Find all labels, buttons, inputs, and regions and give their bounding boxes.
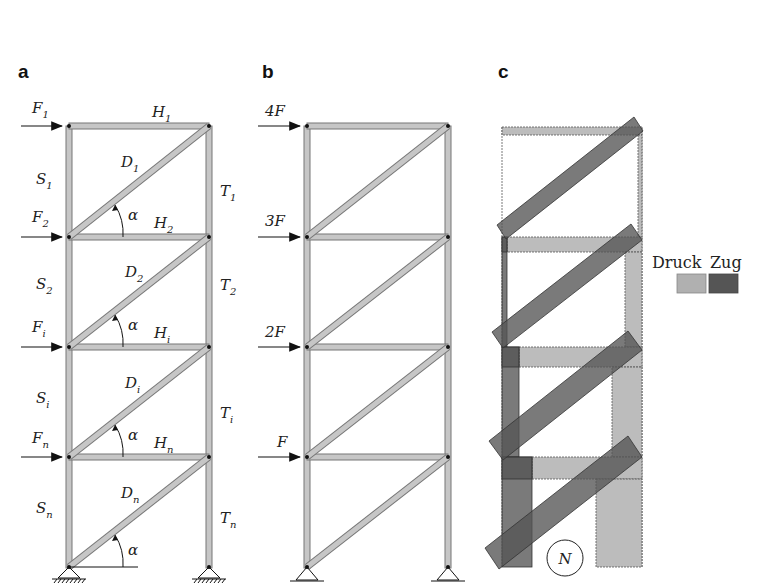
legend-tension-label: Zug	[710, 253, 742, 272]
horizontal-member-i	[69, 344, 209, 350]
legend: Druck Zug	[652, 253, 742, 293]
pin-support-icon	[431, 567, 465, 581]
left-column-label: Si	[36, 389, 49, 410]
right-column-force-band	[596, 479, 642, 567]
diagonal-label: Dn	[120, 484, 139, 505]
force-label: F2	[31, 208, 49, 229]
right-column-label: T1	[220, 182, 236, 203]
force-label: 4F	[264, 102, 286, 120]
truss-diagram: a	[0, 0, 761, 583]
diagonal-label: D2	[124, 263, 143, 284]
horizontal-member	[307, 344, 448, 350]
diagonal-label: D1	[120, 153, 139, 174]
right-column-label: Ti	[220, 404, 233, 425]
angle-label: α	[128, 541, 138, 559]
horizontal-member-n	[69, 454, 209, 460]
right-column-label: T2	[220, 276, 236, 297]
pin-support-icon	[192, 567, 226, 583]
horizontal-member	[307, 123, 448, 129]
horizontal-member	[307, 234, 448, 240]
panel-a-label: a	[18, 61, 29, 82]
right-column-label: Tn	[220, 509, 236, 530]
force-label: 2F	[264, 323, 286, 341]
left-column-label: S2	[36, 275, 53, 296]
force-label: Fn	[31, 429, 49, 450]
force-label: F	[276, 433, 288, 451]
right-column-force-band	[638, 135, 642, 237]
pin-support-icon	[52, 567, 86, 583]
horizontal-label: H1	[151, 103, 171, 124]
panel-c: c N Druck Zug	[485, 61, 742, 576]
diagonal-label: Di	[124, 374, 140, 395]
horizontal-member	[307, 454, 448, 460]
angle-label: α	[128, 206, 138, 224]
legend-compression-label: Druck	[652, 253, 702, 272]
horizontal-label: Hi	[153, 324, 170, 345]
horizontal-member-1	[69, 123, 209, 129]
panel-c-label: c	[498, 61, 509, 82]
normal-force-label: N	[557, 550, 572, 568]
panel-b: b 4F	[258, 61, 465, 581]
angle-label: α	[128, 316, 138, 334]
horizontal-label: H2	[153, 214, 173, 235]
left-column-label: S1	[36, 170, 53, 191]
panel-b-label: b	[262, 61, 274, 82]
pin-support-icon	[290, 567, 324, 581]
angle-label: α	[128, 426, 138, 444]
force-label: F1	[31, 99, 49, 120]
panel-a: a	[18, 61, 236, 583]
legend-compression-swatch	[677, 274, 706, 293]
horizontal-member-2	[69, 234, 209, 240]
left-column-label: Sn	[36, 499, 53, 520]
force-label: 3F	[265, 212, 286, 230]
horizontal-label: Hn	[153, 434, 174, 455]
legend-tension-swatch	[709, 274, 738, 293]
force-label: Fi	[31, 318, 46, 339]
